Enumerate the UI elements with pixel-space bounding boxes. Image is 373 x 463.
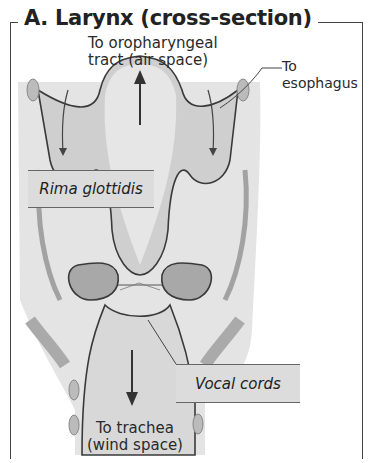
cartilage-ring: [27, 79, 39, 101]
right-fold: [162, 263, 212, 300]
label-trachea: To trachea (wind space): [80, 420, 190, 454]
label-vocal-cords: Vocal cords: [176, 364, 300, 403]
label-oropharyngeal: To oropharyngeal tract (air space): [88, 35, 198, 69]
left-fold: [69, 263, 119, 300]
label-esophagus: To esophagus: [282, 58, 358, 92]
label-rima-glottidis: Rima glottidis: [28, 170, 154, 208]
